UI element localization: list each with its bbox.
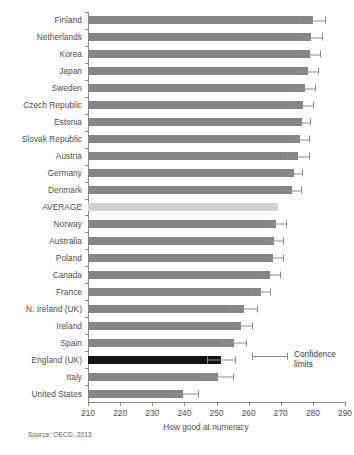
chart-row: Estonia — [88, 114, 345, 131]
chart-row: Canada — [88, 266, 345, 283]
chart-row: Japan — [88, 63, 345, 80]
bar — [88, 186, 292, 194]
chart-row: AVERAGE — [88, 199, 345, 216]
confidence-whisker — [292, 119, 311, 126]
category-label: Denmark — [48, 185, 82, 195]
legend-label: Confidence limits — [294, 349, 336, 369]
confidence-whisker — [265, 220, 287, 227]
category-label: Netherlands — [37, 32, 82, 42]
category-label: Czech Republic — [23, 100, 82, 110]
x-axis-tick-label: 270 — [274, 408, 288, 418]
category-label: France — [56, 287, 82, 297]
confidence-whisker — [221, 339, 247, 346]
chart-row: Slovak Republic — [88, 131, 345, 148]
x-axis-tick — [152, 402, 153, 406]
bar — [88, 220, 276, 228]
y-axis-tick — [85, 199, 88, 200]
x-axis-tick — [249, 402, 250, 406]
x-axis-tick — [217, 402, 218, 406]
category-label: Australia — [49, 236, 82, 246]
x-axis-tick — [120, 402, 121, 406]
bar — [88, 169, 294, 177]
y-axis-tick — [85, 368, 88, 369]
y-axis-tick — [85, 182, 88, 183]
bar — [88, 356, 221, 364]
y-axis-tick — [85, 12, 88, 13]
x-axis-tick — [184, 402, 185, 406]
bar — [88, 118, 302, 126]
y-axis-tick — [85, 249, 88, 250]
confidence-whisker — [252, 288, 271, 295]
chart-row: Sweden — [88, 80, 345, 97]
category-label: Germany — [48, 168, 82, 178]
x-axis-tick — [281, 402, 282, 406]
confidence-whisker — [228, 322, 254, 329]
chart-row: Denmark — [88, 182, 345, 199]
chart-row: Netherlands — [88, 29, 345, 46]
chart-row: N. Ireland (UK) — [88, 300, 345, 317]
y-axis-tick — [85, 131, 88, 132]
chart-row: France — [88, 283, 345, 300]
category-label: Austria — [56, 151, 82, 161]
category-label: Estonia — [54, 117, 82, 127]
category-label: England (UK) — [32, 355, 82, 365]
y-axis-tick — [85, 46, 88, 47]
numeracy-bar-chart: FinlandNetherlandsKoreaJapanSwedenCzech … — [0, 0, 354, 455]
category-label: Slovak Republic — [22, 134, 82, 144]
bar — [88, 305, 244, 313]
error-bar-icon — [252, 353, 288, 360]
bar — [88, 373, 218, 381]
bar — [88, 237, 274, 245]
confidence-whisker — [229, 305, 258, 312]
category-label: AVERAGE — [42, 202, 82, 212]
confidence-whisker — [207, 356, 236, 363]
confidence-whisker — [297, 68, 319, 75]
chart-row: Czech Republic — [88, 97, 345, 114]
confidence-whisker — [290, 136, 309, 143]
legend-label-line1: Confidence — [294, 349, 336, 359]
bar — [88, 16, 313, 24]
bar — [88, 101, 303, 109]
confidence-whisker — [300, 34, 322, 41]
source-note: Source: OECD, 2013 — [28, 431, 92, 438]
y-axis-tick — [85, 283, 88, 284]
x-axis-tick-label: 250 — [210, 408, 224, 418]
x-axis-tick — [313, 402, 314, 406]
x-axis-tick-label: 290 — [338, 408, 352, 418]
category-label: N. Ireland (UK) — [26, 304, 82, 314]
chart-row: Germany — [88, 165, 345, 182]
confidence-whisker — [265, 237, 284, 244]
bar — [88, 339, 234, 347]
category-label: United States — [32, 389, 82, 399]
confidence-whisker — [167, 390, 199, 397]
confidence-whisker — [261, 254, 283, 261]
category-label: Poland — [56, 253, 82, 263]
chart-row: Ireland — [88, 317, 345, 334]
confidence-whisker — [287, 153, 309, 160]
category-label: Norway — [54, 219, 82, 229]
y-axis-tick — [85, 300, 88, 301]
confidence-whisker — [258, 271, 280, 278]
bar — [88, 33, 311, 41]
y-axis-tick — [85, 114, 88, 115]
confidence-whisker — [294, 85, 316, 92]
confidence-whisker — [284, 170, 303, 177]
chart-row: Austria — [88, 148, 345, 165]
bar — [88, 152, 298, 160]
category-label: Spain — [61, 338, 82, 348]
confidence-whisker — [202, 373, 234, 380]
chart-row: Australia — [88, 232, 345, 249]
bar — [88, 254, 273, 262]
bar — [88, 288, 261, 296]
bar — [88, 135, 300, 143]
y-axis-tick — [85, 266, 88, 267]
chart-row: Poland — [88, 249, 345, 266]
y-axis-tick — [85, 165, 88, 166]
x-axis-tick — [345, 402, 346, 406]
chart-row: Norway — [88, 215, 345, 232]
bar — [88, 67, 308, 75]
chart-row: Italy — [88, 368, 345, 385]
chart-row: United States — [88, 385, 345, 402]
bar — [88, 84, 305, 92]
category-label: Finland — [54, 15, 82, 25]
